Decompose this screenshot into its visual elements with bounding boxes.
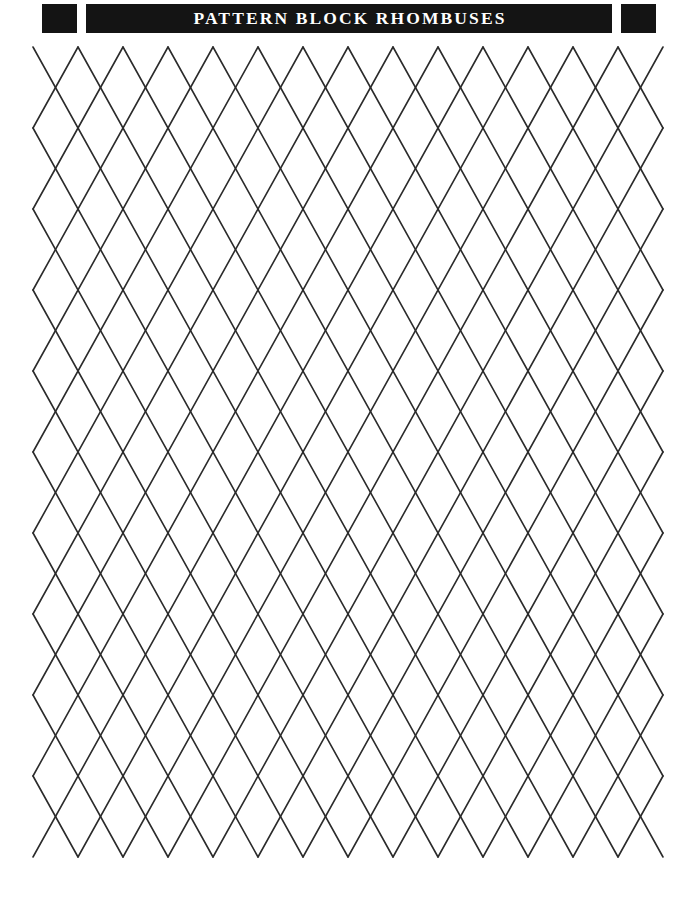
rhombus-lattice-svg — [0, 0, 696, 906]
worksheet-page: PATTERN BLOCK RHOMBUSES — [0, 0, 696, 906]
rhombus-lattice — [0, 0, 696, 906]
